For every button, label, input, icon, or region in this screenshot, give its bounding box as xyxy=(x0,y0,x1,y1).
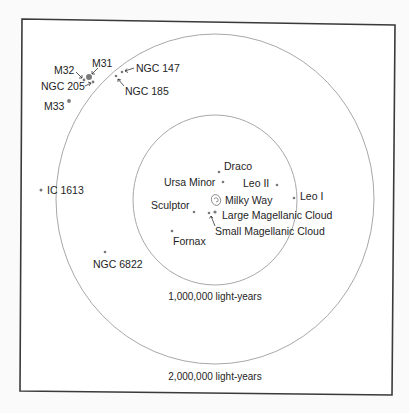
galaxy-dot-ngc-205 xyxy=(92,81,95,84)
galaxy-dot-smc xyxy=(208,212,211,215)
label-ursa-minor: Ursa Minor xyxy=(164,176,216,188)
galaxy-dot-m33 xyxy=(67,99,71,103)
label-m31: M31 xyxy=(92,57,113,69)
label-milky-way: Milky Way xyxy=(225,194,273,206)
label-leo-i: Leo I xyxy=(300,190,323,202)
label-ring-1-million-ly: 1,000,000 light-years xyxy=(168,291,261,302)
label-sculptor: Sculptor xyxy=(151,199,190,211)
label-ngc-6822: NGC 6822 xyxy=(93,258,143,270)
diagram-frame xyxy=(20,19,395,395)
galaxy-dot-ngc-6822 xyxy=(104,251,107,254)
label-ic-1613: IC 1613 xyxy=(47,184,84,196)
galaxy-dot-leo-ii xyxy=(276,184,279,187)
label-lmc: Large Magellanic Cloud xyxy=(222,209,332,221)
label-ring-2-million-ly: 2,000,000 light-years xyxy=(168,371,261,382)
galaxy-dot-draco xyxy=(218,171,221,174)
galaxy-dot-ngc-147 xyxy=(121,71,124,74)
local-group-diagram: Milky Way Draco Ursa Minor Leo II Leo I … xyxy=(0,0,409,413)
label-smc: Small Magellanic Cloud xyxy=(215,225,325,237)
galaxy-dot-ic-1613 xyxy=(40,189,43,192)
label-m33: M33 xyxy=(44,100,65,112)
galaxy-dot-ngc-185 xyxy=(115,75,118,78)
label-draco: Draco xyxy=(224,160,252,172)
galaxy-dot-m31 xyxy=(86,74,92,80)
label-m32: M32 xyxy=(54,64,75,76)
galaxy-dot-ursa-minor xyxy=(222,181,225,184)
galaxy-dot-sculptor xyxy=(193,211,196,214)
label-fornax: Fornax xyxy=(173,235,206,247)
galaxy-dot-leo-i xyxy=(293,197,296,200)
label-ngc-185: NGC 185 xyxy=(125,85,169,97)
galaxy-dot-lmc xyxy=(213,210,216,213)
label-ngc-147: NGC 147 xyxy=(136,62,180,74)
galaxy-dot-fornax xyxy=(171,230,174,233)
label-leo-ii: Leo II xyxy=(243,177,269,189)
label-ngc-205: NGC 205 xyxy=(41,80,85,92)
